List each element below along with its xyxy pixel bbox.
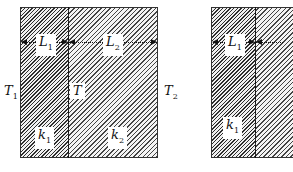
arrowhead-right-icon [249, 39, 255, 45]
interface-line [68, 7, 69, 158]
label-k1: k1 [223, 117, 242, 139]
right-composite-wall: L1 k1 [211, 7, 293, 158]
interface-line [255, 7, 256, 158]
label-l1: L1 [36, 34, 56, 56]
arrowhead-right-icon [151, 39, 157, 45]
arrowhead-left-icon [212, 39, 218, 45]
label-t2: T2 [164, 83, 178, 101]
l1-dimension-line [213, 42, 283, 43]
arrowhead-left-icon [69, 39, 75, 45]
label-t1: T1 [4, 83, 18, 101]
left-composite-wall: L1 L2 T k1 k2 [20, 7, 158, 158]
arrowhead-left-icon [21, 39, 27, 45]
arrowhead-right-icon [62, 39, 68, 45]
layer-2-slab [255, 7, 293, 158]
label-k2: k2 [108, 127, 127, 149]
label-interface-temp: T [70, 83, 85, 99]
label-l2: L2 [103, 34, 123, 56]
arrowhead-left-icon [256, 39, 262, 45]
label-l1: L1 [225, 34, 245, 56]
label-k1: k1 [35, 127, 54, 149]
